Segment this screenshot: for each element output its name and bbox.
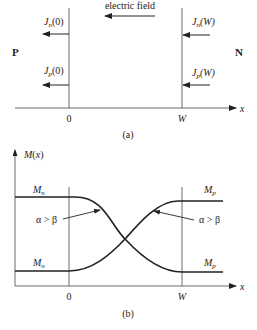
figure-b: M(x) x Mn Mn Mp Mp α > β α > β 0 W (b)	[15, 149, 245, 320]
jpW-label: Jp(W)	[192, 67, 216, 80]
curve-decreasing	[15, 197, 223, 272]
annotation-right: α > β	[199, 214, 220, 225]
region-p-label: P	[12, 46, 19, 58]
tick-w-a: W	[178, 113, 188, 124]
level-mp-bottom: Mp	[203, 257, 216, 270]
annotation-right-arrow	[154, 211, 194, 220]
caption-b: (b)	[122, 308, 134, 320]
level-mn-bottom: Mn	[32, 257, 45, 270]
diagram-canvas: electric field P N Jn(0) Jp(0) Jn(W) Jp(…	[0, 0, 257, 330]
jn0-label: Jn(0)	[44, 16, 64, 29]
tick-0-a: 0	[67, 113, 72, 124]
annotation-left: α > β	[36, 214, 57, 225]
caption-a: (a)	[122, 129, 133, 141]
x-axis-label-b: x	[239, 281, 245, 292]
annotation-left-arrow	[63, 210, 100, 219]
region-n-label: N	[235, 46, 243, 58]
tick-0-b: 0	[67, 291, 72, 302]
jp0-label: Jp(0)	[44, 65, 64, 78]
tick-w-b: W	[178, 291, 188, 302]
x-axis-label-a: x	[239, 103, 245, 114]
y-axis-label-b: M(x)	[23, 149, 43, 161]
curve-increasing	[15, 201, 223, 271]
electric-field-label: electric field	[105, 0, 155, 11]
figure-a: electric field P N Jn(0) Jp(0) Jn(W) Jp(…	[12, 0, 245, 141]
level-mn-top: Mn	[32, 184, 45, 197]
jnW-label: Jn(W)	[192, 16, 216, 29]
level-mp-top: Mp	[203, 184, 216, 197]
